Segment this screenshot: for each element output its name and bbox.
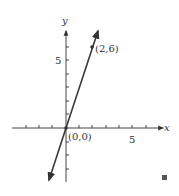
x-tick-label-5: 5 [129, 134, 135, 145]
point-origin [64, 126, 68, 130]
point-label-2-6: (2,6) [95, 43, 119, 54]
end-mark-square [162, 175, 167, 180]
point-2-6 [90, 45, 94, 49]
line-y-equals-3x-lower [49, 128, 66, 180]
y-axis-label: y [61, 15, 68, 26]
line-y-equals-3x [66, 31, 98, 128]
y-tick-label-5: 5 [55, 55, 61, 66]
origin-label: (0,0) [68, 131, 92, 142]
x-axis-label: x [164, 122, 170, 133]
graph: y x 5 5 (0,0) (2,6) [0, 0, 179, 196]
